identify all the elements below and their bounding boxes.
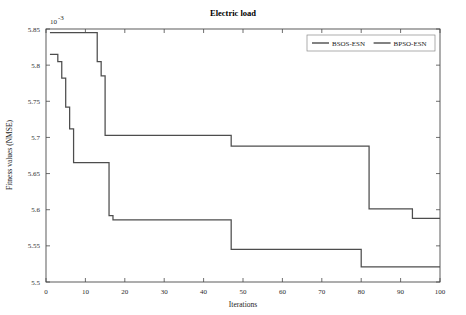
x-tick-label: 80 [358, 288, 366, 296]
electric-load-line-chart: Electric load 10 -3 5.55.555.65.655.75.7… [0, 0, 466, 315]
y-tick-label: 5.55 [28, 242, 41, 250]
y-tick-label: 5.75 [28, 98, 41, 106]
y-tick-label: 5.7 [31, 134, 40, 142]
x-tick-label: 100 [435, 288, 446, 296]
x-axis-title: Iterations [229, 300, 257, 309]
x-tick-label: 70 [318, 288, 326, 296]
y-axis-title: Fitness values (NMSE) [5, 120, 14, 191]
y-tick-label: 5.8 [31, 62, 40, 70]
y-axis-multiplier: 10 -3 [50, 14, 64, 26]
x-tick-label: 10 [82, 288, 90, 296]
y-axis-multiplier-exponent: -3 [58, 14, 64, 22]
chart-container: Electric load 10 -3 5.55.555.65.655.75.7… [0, 0, 466, 315]
legend-label-bpso-esn[interactable]: BPSO-ESN [394, 40, 427, 48]
x-tick-label: 40 [200, 288, 208, 296]
legend-label-bsos-esn[interactable]: BSOS-ESN [332, 40, 365, 48]
y-tick-label: 5.85 [28, 26, 41, 34]
y-tick-label: 5.65 [28, 170, 41, 178]
x-tick-label: 50 [240, 288, 248, 296]
x-tick-label: 30 [161, 288, 169, 296]
data-series-group [50, 33, 440, 267]
y-axis-ticks: 5.55.555.65.655.75.755.85.85 [28, 26, 440, 287]
x-tick-label: 60 [279, 288, 287, 296]
x-tick-label: 0 [44, 288, 48, 296]
chart-title: Electric load [210, 8, 256, 18]
y-tick-label: 5.5 [31, 279, 40, 287]
y-axis-multiplier-base: 10 [50, 18, 58, 26]
chart-legend[interactable]: BSOS-ESNBPSO-ESN [307, 35, 435, 51]
plot-area-frame [46, 29, 440, 282]
x-tick-label: 90 [397, 288, 405, 296]
x-tick-label: 20 [121, 288, 129, 296]
y-tick-label: 5.6 [31, 206, 40, 214]
series-line-bsos-esn [50, 54, 440, 267]
